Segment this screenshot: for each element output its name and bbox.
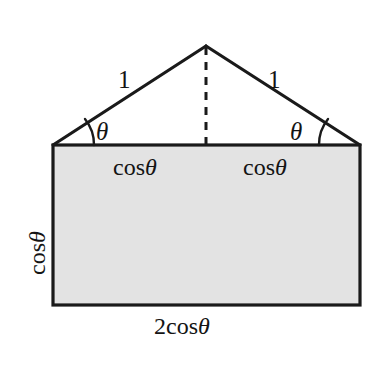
geometry-figure: 1 1 θ θ cosθ cosθ cosθ 2cosθ — [0, 0, 385, 385]
label-left-side-length: 1 — [118, 67, 131, 92]
label-angle-right: θ — [290, 119, 302, 144]
label-angle-left: θ — [96, 119, 108, 144]
label-right-side-length: 1 — [268, 67, 281, 92]
left-side-length-value: 1 — [118, 66, 131, 93]
width-coefficient: 2 — [154, 313, 166, 339]
base-left-function: cos — [113, 154, 145, 180]
base-left-variable: θ — [145, 154, 157, 180]
right-side-length-value: 1 — [268, 66, 281, 93]
base-right-variable: θ — [275, 154, 287, 180]
height-function: cos — [24, 243, 50, 275]
rectangle-fill — [53, 145, 360, 305]
width-function: cos — [166, 313, 198, 339]
height-variable: θ — [24, 231, 50, 243]
angle-right-value: θ — [290, 118, 302, 145]
base-right-function: cos — [243, 154, 275, 180]
label-base-right-segment: cosθ — [243, 155, 287, 179]
label-base-left-segment: cosθ — [113, 155, 157, 179]
width-variable: θ — [198, 313, 210, 339]
angle-left-value: θ — [96, 118, 108, 145]
triangle-left-side — [53, 46, 206, 145]
label-rectangle-height: cosθ — [25, 231, 49, 275]
label-rectangle-width: 2cosθ — [154, 314, 210, 338]
triangle-right-side — [206, 46, 360, 145]
